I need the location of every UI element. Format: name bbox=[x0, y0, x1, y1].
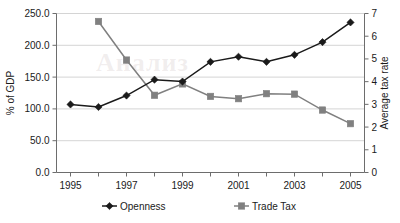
right-axis-tick-label: 4 bbox=[372, 76, 378, 87]
x-axis-tick-label: 1997 bbox=[115, 180, 138, 191]
right-axis-tick-label: 2 bbox=[372, 122, 378, 133]
x-axis-tick-label: 1999 bbox=[171, 180, 194, 191]
legend-label: Openness bbox=[120, 201, 166, 212]
left-axis-tick-label: 0.0 bbox=[36, 167, 50, 178]
left-axis-title: % of GDP bbox=[5, 70, 16, 115]
left-axis-tick-label: 250.0 bbox=[24, 8, 49, 19]
left-axis: 0.050.0100.0150.0200.0250.0% of GDP bbox=[5, 8, 57, 178]
data-point-marker bbox=[291, 91, 297, 97]
right-axis-tick-label: 6 bbox=[372, 31, 378, 42]
legend-marker-square-icon bbox=[238, 203, 244, 209]
legend-item-trade-tax[interactable]: Trade Tax bbox=[234, 201, 296, 212]
right-axis-tick-label: 5 bbox=[372, 53, 378, 64]
right-axis-tick-label: 0 bbox=[372, 167, 378, 178]
data-point-marker bbox=[123, 92, 130, 99]
legend-label: Trade Tax bbox=[252, 201, 296, 212]
series-trade-tax bbox=[95, 18, 353, 127]
gridlines bbox=[57, 14, 365, 141]
chart-container: Анализ 0.050.0100.0150.0200.0250.0% of G… bbox=[0, 0, 400, 223]
x-axis-tick-label: 2003 bbox=[283, 180, 306, 191]
legend-marker-diamond-icon bbox=[106, 202, 113, 209]
data-point-marker bbox=[207, 93, 213, 99]
data-point-marker bbox=[347, 120, 353, 126]
left-axis-tick-label: 200.0 bbox=[24, 40, 49, 51]
x-axis-tick-label: 1995 bbox=[59, 180, 82, 191]
data-point-marker bbox=[123, 57, 129, 63]
right-axis: 01234567Average tax rate bbox=[365, 8, 391, 178]
data-point-marker bbox=[235, 95, 241, 101]
right-axis-title: Average tax rate bbox=[379, 56, 390, 130]
data-point-marker bbox=[151, 92, 157, 98]
legend-item-openness[interactable]: Openness bbox=[102, 201, 166, 212]
left-axis-tick-label: 100.0 bbox=[24, 103, 49, 114]
chart-plot: 0.050.0100.0150.0200.0250.0% of GDP01234… bbox=[0, 0, 400, 223]
x-axis-tick-label: 2005 bbox=[339, 180, 362, 191]
right-axis-tick-label: 3 bbox=[372, 99, 378, 110]
x-axis-tick-label: 2001 bbox=[227, 180, 250, 191]
data-point-marker bbox=[235, 53, 242, 60]
data-point-marker bbox=[263, 90, 269, 96]
data-point-marker bbox=[95, 18, 101, 24]
x-axis: 199519971999200120032005 bbox=[57, 173, 365, 191]
data-point-marker bbox=[67, 101, 74, 108]
data-point-marker bbox=[95, 103, 102, 110]
right-axis-tick-label: 1 bbox=[372, 144, 378, 155]
series-line bbox=[99, 21, 351, 123]
left-axis-tick-label: 50.0 bbox=[30, 135, 50, 146]
left-axis-tick-label: 150.0 bbox=[24, 72, 49, 83]
data-point-marker bbox=[319, 107, 325, 113]
data-point-marker bbox=[291, 51, 298, 58]
right-axis-tick-label: 7 bbox=[372, 8, 378, 19]
data-point-marker bbox=[263, 58, 270, 65]
legend: OpennessTrade Tax bbox=[102, 201, 296, 212]
